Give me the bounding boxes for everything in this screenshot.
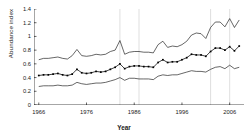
data-point-marker (162, 59, 164, 61)
plot-area: 00.20.40.60.811.21.4 1966197619861996200… (34, 9, 244, 105)
data-point-marker (100, 71, 102, 73)
data-point-marker (176, 61, 178, 63)
data-point-marker (81, 72, 83, 74)
vertical-gridlines (120, 9, 230, 105)
y-tick-label: 0.2 (23, 88, 31, 94)
data-point-marker (124, 68, 126, 70)
data-point-marker (86, 73, 88, 75)
data-point-marker (191, 53, 193, 55)
data-point-marker (114, 66, 116, 68)
data-point-marker (229, 46, 231, 48)
data-point-marker (186, 57, 188, 59)
data-point-marker (138, 65, 140, 67)
data-point-marker (215, 47, 217, 49)
x-tick-label: 2006 (223, 109, 236, 115)
abundance-index-chart: Abundance index Year 00.20.40.60.811.21.… (0, 0, 248, 136)
x-tick-label: 1966 (32, 109, 45, 115)
data-point-marker (205, 55, 207, 57)
data-point-marker (90, 72, 92, 74)
data-point-marker (105, 71, 107, 73)
data-point-marker (172, 61, 174, 63)
data-point-marker (219, 47, 221, 49)
data-point-marker (110, 68, 112, 70)
data-point-marker (52, 73, 54, 75)
y-tick-label: 1 (28, 33, 31, 39)
data-point-marker (157, 62, 159, 64)
data-point-marker (62, 74, 64, 76)
data-point-marker (43, 74, 45, 76)
data-point-marker (129, 66, 131, 68)
data-point-marker (133, 65, 135, 67)
x-tick-label: 1976 (80, 109, 93, 115)
data-point-marker (119, 63, 121, 65)
y-tick-label: 1.2 (23, 20, 31, 26)
y-tick-label: 0.6 (23, 61, 31, 67)
data-point-marker (38, 75, 40, 77)
data-point-marker (195, 54, 197, 56)
y-tick-label: 1.4 (23, 6, 31, 12)
data-point-marker (71, 73, 73, 75)
data-point-marker (67, 75, 69, 77)
data-point-marker (47, 74, 49, 76)
data-point-marker (57, 73, 59, 75)
chart-canvas (34, 9, 244, 105)
x-tick-label: 1986 (128, 109, 141, 115)
y-axis-title: Abundance index (7, 0, 14, 68)
x-tick-label: 1996 (176, 109, 189, 115)
data-point-marker (143, 66, 145, 68)
y-tick-label: 0.4 (23, 75, 31, 81)
data-point-marker (148, 66, 150, 68)
data-point-marker (224, 49, 226, 51)
data-point-marker (76, 68, 78, 70)
data-point-marker (167, 62, 169, 64)
axis-tick-marks (34, 9, 230, 105)
data-point-marker (152, 66, 154, 68)
y-tick-label: 0 (28, 102, 31, 108)
data-point-marker (181, 59, 183, 61)
y-tick-label: 0.8 (23, 47, 31, 53)
x-axis-title: Year (0, 124, 248, 131)
data-point-marker (238, 45, 240, 47)
data-point-marker (200, 54, 202, 56)
data-point-marker (210, 51, 212, 53)
data-point-marker (95, 71, 97, 73)
data-point-marker (234, 50, 236, 52)
